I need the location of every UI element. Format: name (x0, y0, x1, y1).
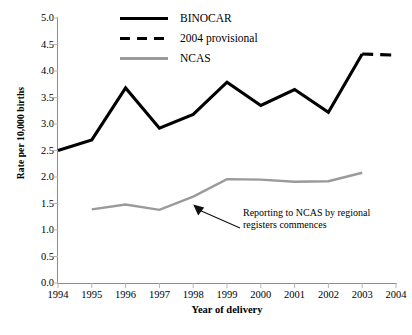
series-line-2004-provisional (362, 54, 396, 55)
legend-item-binocar: BINOCAR (120, 9, 320, 29)
chart-legend: BINOCAR 2004 provisional NCAS (120, 9, 320, 69)
legend-key-dashed-line-icon (120, 37, 168, 40)
x-axis-tick-labels: 1994199519961997199819992000200120022003… (0, 289, 412, 305)
y-tick-label: 0.0 (26, 278, 54, 289)
y-tick-label: 0.5 (26, 252, 54, 263)
y-tick-label: 2.0 (26, 172, 54, 183)
annotation-text: Reporting to NCAS by regional registers … (243, 207, 408, 230)
legend-label-ncas: NCAS (180, 49, 211, 68)
y-axis-title: Rate per 10,000 births (16, 63, 26, 203)
x-axis-line (57, 283, 397, 284)
annotation-arrow-head-icon (193, 205, 204, 216)
x-axis-title: Year of delivery (58, 304, 396, 315)
annotation-line-1: Reporting to NCAS by regional (243, 207, 408, 219)
legend-item-ncas: NCAS (120, 49, 320, 69)
y-tick-label: 4.5 (26, 40, 54, 51)
y-axis-line (57, 17, 58, 284)
annotation-arrow-line (200, 211, 240, 228)
chart-figure: Rate per 10,000 births 5.04.54.03.53.02.… (0, 0, 412, 335)
y-tick-label: 4.0 (26, 66, 54, 77)
legend-label-binocar: BINOCAR (180, 9, 232, 28)
y-axis-tick-labels: 5.04.54.03.53.02.52.01.51.00.50.0 (26, 0, 54, 335)
annotation-line-2: registers commences (243, 219, 408, 231)
y-tick-label: 1.0 (26, 225, 54, 236)
y-tick-label: 3.5 (26, 93, 54, 104)
y-tick-label: 2.5 (26, 146, 54, 157)
y-tick-label: 1.5 (26, 199, 54, 210)
legend-key-solid-line-icon (120, 17, 168, 20)
series-line-ncas (92, 173, 362, 210)
legend-item-2004-provisional: 2004 provisional (120, 29, 320, 49)
y-tick-label: 3.0 (26, 119, 54, 130)
y-tick-label: 5.0 (26, 13, 54, 24)
legend-label-2004-provisional: 2004 provisional (180, 29, 258, 48)
x-tick-label: 2004 (374, 289, 412, 301)
legend-key-gray-line-icon (120, 57, 168, 60)
